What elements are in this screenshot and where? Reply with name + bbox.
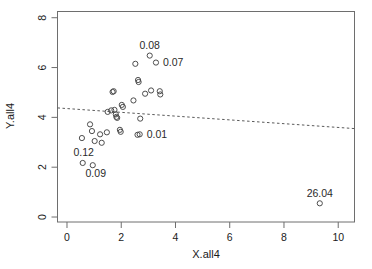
figure-background: [0, 0, 372, 269]
point-value-label: 0.12: [74, 146, 95, 158]
y-tick-label: 6: [36, 64, 48, 70]
point-value-label: 26.04: [307, 187, 333, 199]
scatter-plot-screenshot: 02468 0246810 0.120.090.080.070.0126.04 …: [0, 0, 372, 269]
y-tick-label: 0: [36, 214, 48, 220]
y-axis-title: Y.all4: [4, 103, 16, 129]
point-value-label: 0.08: [140, 39, 161, 51]
x-tick-label: 0: [64, 231, 70, 243]
point-value-label: 0.07: [163, 56, 184, 68]
scatter-plot-figure: 02468 0246810 0.120.090.080.070.0126.04 …: [0, 0, 372, 269]
x-tick-label: 10: [332, 231, 344, 243]
y-tick-label: 2: [36, 164, 48, 170]
y-tick-label: 4: [36, 114, 48, 120]
point-value-label: 0.09: [86, 167, 107, 179]
y-tick-label: 8: [36, 15, 48, 21]
x-tick-label: 4: [173, 231, 179, 243]
x-axis-title: X.all4: [192, 248, 220, 260]
x-tick-label: 2: [118, 231, 124, 243]
x-tick-label: 8: [281, 231, 287, 243]
point-value-label: 0.01: [147, 128, 168, 140]
x-tick-label: 6: [227, 231, 233, 243]
